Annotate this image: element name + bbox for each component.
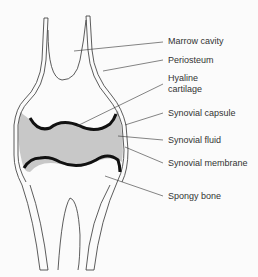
label-synovial-capsule: Synovial capsule [168,108,236,119]
lower-bone-outline [22,185,48,270]
label-spongy-bone: Spongy bone [168,191,221,202]
label-hyaline: Hyaline [168,73,198,84]
label-synovial-fluid: Synovial fluid [168,135,221,146]
label-synovial-membrane: Synovial membrane [168,158,248,169]
label-marrow-cavity: Marrow cavity [168,36,224,47]
label-cartilage: cartilage [168,84,202,95]
label-periosteum: Periosteum [168,55,214,66]
marrow-cavity-shape [48,20,86,80]
lower-marrow-cavity [58,198,80,270]
synovial-fluid-region [18,110,123,172]
